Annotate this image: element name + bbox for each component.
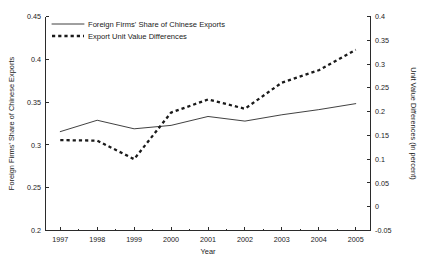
- x-axis-tick-label: 2000: [163, 235, 179, 244]
- y-axis-left-tick-label: 0.35: [27, 98, 41, 107]
- chart-container: 0.20.250.30.350.40.45-0.0500.050.10.150.…: [0, 0, 425, 274]
- y-axis-right-tick-label: -0.05: [375, 226, 391, 235]
- y-axis-right-tick-label: 0.1: [375, 155, 385, 164]
- legend-label-1: Foreign Firms' Share of Chinese Exports: [88, 20, 225, 29]
- y-axis-right-tick-label: 0.2: [375, 107, 385, 116]
- x-axis-tick-label: 1999: [126, 235, 142, 244]
- y-axis-right-title: Unit Value Differences (in percent): [409, 67, 418, 179]
- legend-label-2: Export Unit Value Differences: [88, 32, 187, 41]
- y-axis-left-tick-label: 0.25: [27, 183, 41, 192]
- x-axis-tick-label: 2001: [200, 235, 216, 244]
- y-axis-right-tick-label: 0: [375, 202, 379, 211]
- y-axis-right-tick-label: 0.15: [375, 131, 389, 140]
- x-axis-tick-label: 2005: [348, 235, 364, 244]
- y-axis-left-tick-label: 0.45: [27, 12, 41, 21]
- y-axis-right-tick-label: 0.4: [375, 12, 385, 21]
- y-axis-right-tick-label: 0.3: [375, 60, 385, 69]
- x-axis-tick-label: 2003: [274, 235, 290, 244]
- x-axis-tick-label: 1997: [52, 235, 68, 244]
- x-axis-tick-label: 1998: [89, 235, 105, 244]
- x-axis-title: Year: [201, 247, 216, 256]
- chart-background: [0, 0, 425, 274]
- y-axis-left-tick-label: 0.4: [31, 55, 41, 64]
- x-axis-tick-label: 2002: [237, 235, 253, 244]
- y-axis-left-tick-label: 0.2: [31, 226, 41, 235]
- y-axis-left-title: Foreign Firms' Share of Chinese Exports: [7, 57, 16, 191]
- y-axis-right-tick-label: 0.25: [375, 83, 389, 92]
- y-axis-left-tick-label: 0.3: [31, 141, 41, 150]
- y-axis-right-tick-label: 0.35: [375, 36, 389, 45]
- x-axis-tick-label: 2004: [311, 235, 327, 244]
- y-axis-right-tick-label: 0.05: [375, 179, 389, 188]
- line-chart: 0.20.250.30.350.40.45-0.0500.050.10.150.…: [0, 0, 425, 274]
